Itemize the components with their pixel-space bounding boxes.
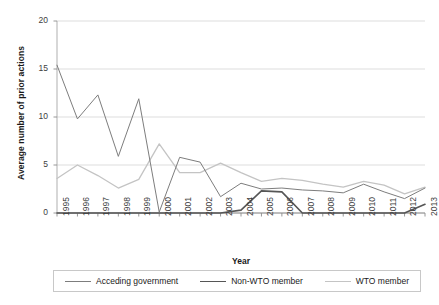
legend-item[interactable]: Acceding government (65, 276, 178, 286)
x-axis-tick-label: 2004 (245, 197, 255, 216)
x-axis-tick-label: 2013 (429, 197, 439, 216)
x-axis-tick-label: 2012 (408, 197, 418, 216)
x-axis-tick-label: 2003 (224, 197, 234, 216)
x-axis-title: Year (57, 256, 425, 266)
legend-swatch (65, 281, 91, 282)
legend-swatch (325, 281, 351, 282)
x-axis-tick-label: 2002 (204, 197, 214, 216)
x-axis-tick-label: 1997 (101, 197, 111, 216)
series-lines (57, 65, 425, 213)
x-axis-tick-label: 1999 (142, 197, 152, 216)
axis-lines (54, 21, 58, 213)
x-axis-tick-label: 2011 (388, 198, 398, 216)
x-axis-tick-label: 2010 (367, 197, 377, 216)
x-axis-tick-label: 1995 (61, 197, 71, 216)
legend-swatch (200, 281, 226, 282)
x-axis-tick-label: 1996 (81, 197, 91, 216)
x-axis-tick-label: 2000 (163, 197, 173, 216)
x-axis-tick-label: 2005 (265, 197, 275, 216)
x-axis-tick-label: 2001 (183, 197, 193, 216)
chart-legend: Acceding governmentNon-WTO memberWTO mem… (53, 270, 421, 292)
x-axis-tick-label: 2008 (326, 197, 336, 216)
x-axis-tick-label: 2009 (347, 197, 357, 216)
x-axis-tick-label: 2006 (285, 197, 295, 216)
legend-item[interactable]: WTO member (325, 276, 409, 286)
x-axis-tick-label: 1998 (122, 197, 132, 216)
legend-label: WTO member (356, 276, 409, 286)
legend-item[interactable]: Non-WTO member (200, 276, 303, 286)
legend-label: Non-WTO member (231, 276, 303, 286)
x-axis-tick-label: 2007 (306, 197, 316, 216)
series-line (57, 65, 425, 212)
legend-label: Acceding government (96, 276, 178, 286)
